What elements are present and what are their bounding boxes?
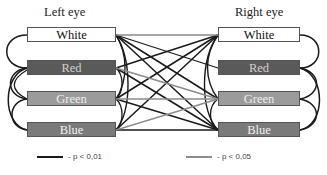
left-node-red: Red <box>27 60 116 75</box>
node-label: Green <box>56 92 87 106</box>
right-node-green: Green <box>218 91 300 106</box>
node-label: Blue <box>60 123 84 137</box>
legend-swatch-icon <box>37 156 63 158</box>
node-label: Green <box>244 92 275 106</box>
left-node-white: White <box>27 27 116 42</box>
legend-swatch-icon <box>186 156 212 158</box>
right-node-white: White <box>218 27 300 42</box>
node-label: Red <box>249 61 269 75</box>
left-node-green: Green <box>27 91 116 106</box>
node-label: White <box>56 28 87 42</box>
node-label: Blue <box>247 123 271 137</box>
node-label: Red <box>61 61 81 75</box>
right-node-blue: Blue <box>218 122 300 137</box>
legend-label: - p < 0,05 <box>217 152 251 161</box>
legend-strong: - p < 0,01 <box>37 152 102 161</box>
legend-label: - p < 0,01 <box>68 152 102 161</box>
right-node-red: Red <box>218 60 300 75</box>
left-node-blue: Blue <box>27 122 116 137</box>
legend-weak: - p < 0,05 <box>186 152 251 161</box>
node-label: White <box>244 28 275 42</box>
